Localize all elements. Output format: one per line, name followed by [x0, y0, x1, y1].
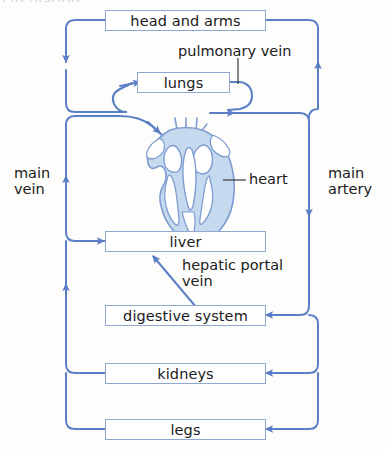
label-hepatic-portal-vein: hepatic portal vein [182, 258, 283, 289]
organ-box-head-and-arms[interactable]: head and arms [105, 10, 266, 31]
vessel-left-trunk-bottom [66, 373, 104, 429]
organ-label-kidneys: kidneys [157, 366, 214, 382]
label-heart: heart [249, 172, 288, 188]
heart-left-ventricle-detail [164, 145, 182, 172]
vessel-artery-down-to-kidneys [266, 315, 318, 373]
vessel-artery-from-heart-top [228, 113, 309, 150]
vessel-head-to-left-trunk [66, 20, 105, 52]
organ-box-liver[interactable]: liver [105, 231, 266, 252]
vessel-left-trunk-lower [66, 300, 104, 373]
organ-box-kidneys[interactable]: kidneys [105, 363, 266, 384]
vessel-pulmonary-vein-from-lungs [228, 82, 252, 110]
circulation-diagram: circulation [0, 0, 385, 449]
label-main-artery: main artery [328, 166, 372, 197]
organ-box-legs[interactable]: legs [105, 419, 266, 440]
vessel-vein-arrow-into-heart [148, 122, 160, 133]
vessel-main-vein-top-into-heart [66, 116, 163, 176]
vessel-artery-up-right [309, 70, 318, 118]
organ-label-head-and-arms: head and arms [130, 13, 240, 29]
organ-label-legs: legs [170, 422, 200, 438]
vessel-left-trunk-liver-return [66, 232, 104, 241]
vessel-pulmonary-artery-to-lungs [113, 83, 132, 112]
label-main-vein: main vein [14, 166, 50, 197]
organ-box-lungs[interactable]: lungs [137, 72, 230, 93]
organ-label-lungs: lungs [164, 75, 204, 91]
label-pulmonary-vein: pulmonary vein [178, 44, 291, 60]
heart-illustration [147, 128, 235, 242]
organ-box-digestive-system[interactable]: digestive system [105, 305, 266, 326]
organ-label-liver: liver [169, 234, 201, 250]
organ-label-digestive-system: digestive system [123, 308, 248, 324]
vessel-artery-down-to-legs [266, 373, 318, 429]
